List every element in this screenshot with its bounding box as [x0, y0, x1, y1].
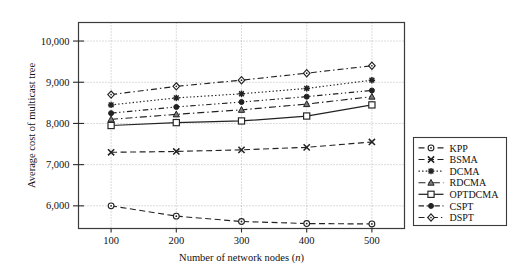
legend-label: CSPT	[450, 201, 474, 212]
data-marker	[108, 102, 114, 108]
line-chart: 6,0007,0008,0009,00010,00010020030040050…	[0, 0, 516, 276]
data-marker	[428, 168, 434, 174]
data-marker-core	[371, 223, 373, 225]
data-marker	[173, 95, 179, 101]
data-marker	[369, 88, 374, 93]
data-marker	[238, 118, 244, 124]
x-tick-label: 500	[364, 235, 380, 246]
data-marker	[109, 111, 114, 116]
series-bsma	[108, 139, 375, 156]
data-marker-core	[110, 205, 112, 207]
legend-label: BSMA	[450, 154, 479, 165]
data-marker	[369, 77, 375, 83]
data-marker	[174, 104, 179, 109]
data-marker	[429, 203, 434, 208]
x-axis-title-tail: )	[300, 252, 304, 264]
y-axis-title: Average cost of multicast tree	[26, 63, 37, 189]
data-marker-core	[241, 79, 243, 81]
data-marker	[238, 91, 244, 97]
data-marker-core	[306, 223, 308, 225]
data-marker	[304, 85, 310, 91]
tick-labels: 6,0007,0008,0009,00010,00010020030040050…	[41, 36, 380, 246]
data-marker-core	[175, 86, 177, 88]
data-marker-core	[306, 72, 308, 74]
gridlines	[79, 23, 405, 229]
x-axis-title: Number of network nodes (n)	[179, 252, 304, 264]
y-tick-label: 6,000	[46, 200, 70, 211]
data-marker-core	[371, 65, 373, 67]
data-marker	[369, 93, 375, 99]
data-marker-core	[175, 215, 177, 217]
data-marker	[239, 100, 244, 105]
chart-figure: 6,0007,0008,0009,00010,00010020030040050…	[0, 0, 516, 276]
x-tick-label: 100	[103, 235, 119, 246]
data-marker	[304, 113, 310, 119]
data-marker-core	[241, 221, 243, 223]
plot-axes	[73, 23, 405, 233]
data-marker	[108, 122, 114, 128]
data-series-layer	[108, 62, 375, 227]
data-marker	[173, 120, 179, 126]
chart-legend: KPPBSMADCMARDCMAOPTDCMACSPTDSPT	[414, 138, 507, 226]
legend-label: OPTDCMA	[450, 189, 500, 200]
legend-label: DCMA	[450, 166, 481, 177]
data-marker	[304, 94, 309, 99]
data-marker-core	[430, 217, 432, 219]
y-tick-label: 7,000	[46, 159, 70, 170]
x-tick-label: 400	[299, 235, 315, 246]
data-marker-core	[110, 94, 112, 96]
y-tick-label: 9,000	[46, 77, 70, 88]
legend-label: RDCMA	[450, 177, 487, 188]
x-tick-label: 200	[168, 235, 184, 246]
data-marker-core	[430, 147, 432, 149]
data-marker	[428, 191, 434, 197]
y-tick-label: 8,000	[46, 118, 70, 129]
legend-label: KPP	[450, 143, 469, 154]
y-tick-label: 10,000	[41, 36, 70, 47]
x-tick-label: 300	[234, 235, 250, 246]
x-axis-title-main: Number of network nodes (	[179, 252, 296, 264]
legend-label: DSPT	[450, 212, 474, 223]
data-marker	[369, 102, 375, 108]
